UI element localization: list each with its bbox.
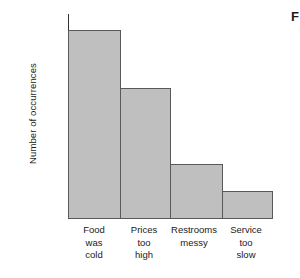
bar-chart-figure: Number of occurrences 25 20 15 10 5 Food… xyxy=(0,0,300,278)
bar-service-too-slow xyxy=(222,191,273,219)
x-axis-category-labels: Food was cold Prices too high Restrooms … xyxy=(68,224,273,276)
figure-corner-mark: F xyxy=(291,9,300,25)
bar-prices-too-high xyxy=(120,88,171,219)
x-category-line: Restrooms xyxy=(164,224,224,237)
y-axis-tick-labels: 25 20 15 10 5 xyxy=(0,0,62,278)
x-category-service-too-slow: Service too slow xyxy=(216,224,276,262)
x-category-restrooms-messy: Restrooms messy xyxy=(164,224,224,249)
bar-restrooms-messy xyxy=(170,164,223,219)
x-category-line: high xyxy=(114,249,174,262)
bar-food-was-cold xyxy=(68,30,121,219)
x-category-line: too xyxy=(216,237,276,250)
x-category-line: slow xyxy=(216,249,276,262)
x-category-line: Service xyxy=(216,224,276,237)
x-category-line: messy xyxy=(164,237,224,250)
